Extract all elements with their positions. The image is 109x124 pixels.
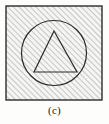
figure-caption: (c) (0, 103, 109, 117)
figure-container: (c) (0, 0, 109, 124)
